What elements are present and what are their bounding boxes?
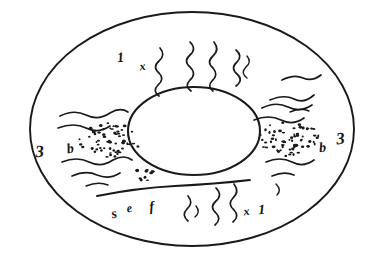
stipple-dot (284, 155, 287, 157)
stipple-dot (300, 139, 303, 141)
stipple-dot (313, 141, 315, 143)
stipple-dot (277, 150, 280, 153)
stipple-dot (268, 131, 270, 134)
stipple-dot (281, 121, 284, 124)
stipple-dot (123, 124, 127, 127)
stipple-dot (79, 138, 81, 140)
stipple-dot (310, 128, 313, 130)
stipple-dot (281, 140, 283, 142)
stipple-dot (260, 134, 262, 136)
stipple-dot (122, 140, 126, 142)
stipple-dot (290, 136, 293, 139)
stipple-dot (89, 127, 93, 130)
stipple-dot (280, 149, 282, 151)
stipple-dot (114, 155, 117, 158)
stipple-dot (103, 147, 105, 149)
stipple-dot (272, 134, 275, 136)
stipple-dot (289, 149, 292, 151)
stipple-dot (264, 142, 267, 144)
stipple-dot (299, 126, 303, 129)
stipple-dot (261, 139, 264, 141)
stipple-dot (136, 145, 139, 148)
stipple-dot (117, 133, 120, 135)
stipple-dot (270, 140, 272, 143)
stipple-dot (106, 141, 110, 143)
stipple-dot (265, 147, 268, 149)
stipple-dot (97, 131, 101, 133)
stipple-dot (298, 123, 302, 126)
stipple-dot (313, 135, 317, 137)
stipple-dot (97, 144, 100, 146)
stipple-dot (302, 126, 305, 129)
stipple-dot (92, 131, 96, 134)
stipple-dot (91, 147, 94, 150)
stipple-dot (282, 132, 285, 134)
stipple-dot (288, 139, 290, 141)
stipple-dot (96, 141, 98, 143)
stipple-dot (296, 133, 299, 135)
stipple-dot (273, 130, 276, 133)
stipple-dot (110, 128, 114, 130)
stipple-dot (316, 136, 319, 139)
stipple-dot (107, 122, 110, 124)
stipple-dot (102, 133, 105, 136)
stipple-dot (308, 140, 311, 143)
stipple-dot (145, 170, 148, 173)
stipple-dot (269, 124, 271, 126)
stipple-dot (116, 153, 118, 155)
stipple-dot (301, 145, 304, 148)
stipple-dot (99, 124, 103, 127)
stipple-dot (278, 130, 282, 133)
stipple-dot (271, 137, 275, 139)
stipple-dot (302, 136, 304, 138)
stipple-dot (81, 146, 84, 148)
stipple-dot (297, 152, 301, 154)
stipple-dot (291, 140, 293, 143)
stipple-dot (122, 134, 125, 136)
stipple-dot (105, 156, 108, 158)
stipple-dot (88, 136, 91, 138)
stipple-dot (121, 147, 124, 149)
stipple-dot (128, 143, 132, 145)
stipple-dot (132, 143, 135, 145)
stipple-dot (281, 144, 285, 146)
annular-cross-section-diagram: 1x3bb3sefx1 (0, 0, 380, 262)
stipple-dot (139, 177, 142, 180)
label-left-numeral: 3 (34, 142, 45, 162)
stipple-dot (135, 169, 139, 172)
stipple-dot (116, 130, 119, 132)
stipple-dot (131, 131, 134, 133)
stipple-dot (292, 127, 295, 129)
stipple-dot (112, 149, 115, 152)
stipple-dot (114, 143, 117, 145)
stipple-dot (262, 146, 266, 148)
stipple-dot (306, 128, 308, 131)
stipple-dot (149, 172, 153, 175)
stipple-dot (109, 152, 112, 154)
stipple-dot (100, 149, 103, 152)
stipple-dot (122, 143, 125, 145)
figure-background (0, 0, 380, 262)
stipple-dot (109, 147, 112, 150)
stipple-dot (94, 150, 97, 153)
stipple-dot (118, 135, 121, 137)
stipple-dot (121, 129, 124, 131)
stipple-dot (79, 143, 82, 145)
stipple-dot (144, 176, 147, 179)
stipple-dot (284, 141, 286, 143)
stipple-dot (272, 145, 276, 148)
stipple-dot (146, 179, 149, 181)
stipple-dot (275, 138, 277, 141)
stipple-dot (112, 125, 114, 127)
figure-root: 1x3bb3sefx1 (0, 0, 380, 262)
stipple-dot (109, 154, 112, 157)
stipple-dot (288, 154, 291, 156)
stipple-dot (292, 153, 294, 156)
stipple-dot (306, 145, 310, 148)
stipple-dot (97, 140, 100, 142)
stipple-dot (102, 128, 104, 130)
stipple-dot (295, 144, 298, 147)
stipple-dot (95, 148, 98, 150)
stipple-dot (103, 136, 107, 138)
stipple-dot (99, 147, 102, 149)
